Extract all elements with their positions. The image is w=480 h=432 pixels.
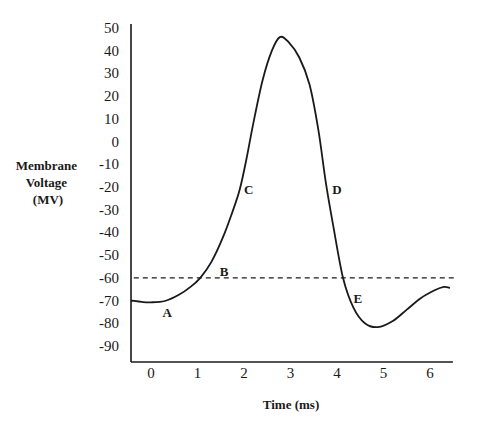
y-tick-label: 20 <box>104 88 119 104</box>
y-tick-label: -30 <box>99 202 119 218</box>
x-tick-label: 3 <box>287 365 295 381</box>
y-tick-label: -10 <box>99 156 119 172</box>
membrane-potential-curve <box>131 37 450 328</box>
x-tick-label: 6 <box>426 365 434 381</box>
y-tick-label: -60 <box>99 270 119 286</box>
y-tick-label: -40 <box>99 224 119 240</box>
x-tick-label: 4 <box>333 365 341 381</box>
y-tick-label: -50 <box>99 247 119 263</box>
y-tick-label: -20 <box>99 179 119 195</box>
x-tick-labels: 0123456 <box>147 365 434 381</box>
y-tick-labels: 50403020100-10-20-30-40-50-60-70-80-90 <box>99 20 119 354</box>
x-tick-label: 5 <box>380 365 388 381</box>
point-annotations: ABCDE <box>163 182 363 320</box>
y-tick-label: -80 <box>99 315 119 331</box>
x-axis-title: Time (ms) <box>263 397 319 412</box>
y-axis-title-line-2: Voltage <box>26 175 68 190</box>
y-axis-title-line-1: Membrane <box>16 158 78 173</box>
y-tick-label: 40 <box>104 43 119 59</box>
y-tick-label: 30 <box>104 65 119 81</box>
x-tick-label: 0 <box>147 365 155 381</box>
y-tick-label: 10 <box>104 111 119 127</box>
x-tick-label: 2 <box>240 365 248 381</box>
y-tick-label: 50 <box>104 20 119 36</box>
x-tick-label: 1 <box>194 365 202 381</box>
y-tick-label: 0 <box>112 134 120 150</box>
y-axis-title-line-3: (MV) <box>33 192 63 207</box>
annotation-d: D <box>332 182 341 197</box>
annotation-a: A <box>163 305 173 320</box>
y-axis-title: Membrane Voltage (MV) <box>16 158 81 207</box>
annotation-c: C <box>244 182 253 197</box>
action-potential-chart: 50403020100-10-20-30-40-50-60-70-80-90 0… <box>0 0 480 432</box>
y-tick-label: -70 <box>99 293 119 309</box>
y-tick-label: -90 <box>99 338 119 354</box>
annotation-b: B <box>220 264 229 279</box>
annotation-e: E <box>354 291 363 306</box>
